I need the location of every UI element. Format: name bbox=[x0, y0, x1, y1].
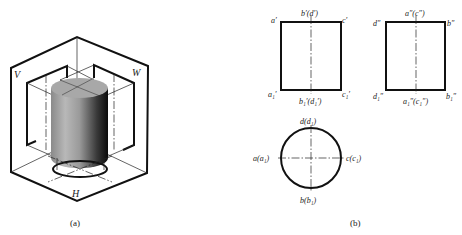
side-view: d″ a″(c″) b″ d₁″ a₁″(c₁″) b₁″ bbox=[373, 9, 457, 106]
front-label-top-left: a′ bbox=[271, 16, 277, 25]
top-label-top: d(d₁) bbox=[300, 117, 316, 126]
top-label-bottom: b(b₁) bbox=[300, 196, 316, 205]
top-label-right: c(c₁) bbox=[346, 154, 362, 163]
diagram-canvas: V W H (a) a′ b′(d′) c′ a₁′ b₁′(d₁′) c₁′ … bbox=[0, 0, 462, 235]
orthographic-views-figure: a′ b′(d′) c′ a₁′ b₁′(d₁′) c₁′ d″ a″(c″) … bbox=[253, 9, 457, 228]
side-view-rect bbox=[386, 22, 445, 90]
caption-b: (b) bbox=[350, 218, 361, 228]
front-label-top-center: b′(d′) bbox=[301, 9, 318, 18]
caption-a: (a) bbox=[70, 218, 80, 228]
isometric-projection-figure: V W H (a) bbox=[11, 37, 148, 228]
side-label-bottom-left: d₁″ bbox=[373, 92, 384, 101]
w-frame-bottom bbox=[104, 145, 134, 158]
top-label-left: a(a₁) bbox=[253, 154, 269, 163]
label-w-plane: W bbox=[132, 67, 142, 78]
label-v-plane: V bbox=[14, 69, 22, 80]
side-label-bottom-center: a₁″(c₁″) bbox=[403, 97, 428, 106]
front-label-bottom-right: c₁′ bbox=[342, 90, 350, 99]
side-label-top-left: d″ bbox=[373, 19, 381, 28]
cylinder-body bbox=[51, 88, 108, 168]
front-label-bottom-center: b₁′(d₁′) bbox=[299, 97, 322, 106]
side-label-top-center: a″(c″) bbox=[405, 9, 425, 18]
side-label-bottom-right: b₁″ bbox=[446, 92, 457, 101]
side-label-top-right: b″ bbox=[447, 19, 455, 28]
cylinder bbox=[51, 78, 108, 168]
label-h-plane: H bbox=[71, 188, 80, 199]
front-view: a′ b′(d′) c′ a₁′ b₁′(d₁′) c₁′ bbox=[268, 9, 350, 106]
top-view: d(d₁) a(a₁) c(c₁) b(b₁) bbox=[253, 117, 362, 205]
front-label-top-right: c′ bbox=[342, 16, 348, 25]
front-label-bottom-left: a₁′ bbox=[268, 90, 277, 99]
